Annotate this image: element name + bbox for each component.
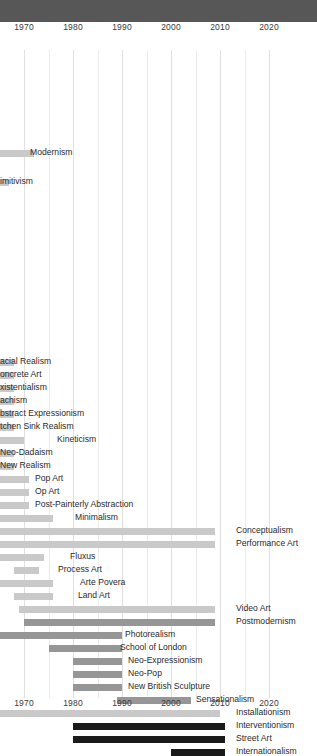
timeline-bar[interactable] bbox=[0, 632, 122, 639]
gridline-2015 bbox=[245, 50, 246, 698]
tick-top-2020: 2020 bbox=[249, 22, 289, 32]
timeline-bar[interactable] bbox=[73, 671, 122, 678]
gridline-1990 bbox=[122, 50, 123, 698]
bar-label: acial Realism bbox=[0, 356, 51, 366]
gridline-1985 bbox=[98, 50, 99, 698]
timeline-bar[interactable] bbox=[24, 619, 215, 626]
window-header-bar bbox=[0, 0, 317, 22]
timeline-bar[interactable] bbox=[73, 723, 225, 730]
timeline-bar[interactable] bbox=[14, 567, 39, 574]
bar-label: Postmodernism bbox=[236, 616, 296, 626]
gridline-1980 bbox=[73, 50, 74, 698]
bar-label: Conceptualism bbox=[236, 525, 293, 535]
timeline-bar[interactable] bbox=[0, 554, 44, 561]
tick-bottom-1990: 1990 bbox=[102, 698, 142, 708]
timeline-bar[interactable] bbox=[0, 437, 24, 444]
tick-top-1990: 1990 bbox=[102, 22, 142, 32]
timeline-bar[interactable] bbox=[49, 645, 123, 652]
bar-label: Op Art bbox=[35, 486, 59, 496]
bar-label: Minimalism bbox=[75, 512, 118, 522]
timeline-bar[interactable] bbox=[19, 606, 215, 613]
tick-top-2010: 2010 bbox=[200, 22, 240, 32]
axis-top: 197019801990200020102020 bbox=[0, 22, 317, 38]
timeline-bar[interactable] bbox=[0, 515, 53, 522]
tick-bottom-2020: 2020 bbox=[249, 698, 289, 708]
timeline-bar[interactable] bbox=[14, 593, 53, 600]
bar-label: bstract Expressionism bbox=[0, 408, 84, 418]
bar-label: Video Art bbox=[236, 603, 271, 613]
bar-label: tchen Sink Realism bbox=[0, 421, 74, 431]
tick-top-1970: 1970 bbox=[4, 22, 44, 32]
bar-label: Process Art bbox=[58, 564, 102, 574]
tick-bottom-2000: 2000 bbox=[151, 698, 191, 708]
timeline-bar[interactable] bbox=[0, 580, 53, 587]
bar-label: Land Art bbox=[78, 590, 110, 600]
bar-label: Neo-Dadaism bbox=[0, 447, 53, 457]
timeline-bar[interactable] bbox=[73, 684, 122, 691]
bar-label: imitivism bbox=[0, 176, 33, 186]
bar-label: xistentialism bbox=[0, 382, 47, 392]
bar-label: Kineticism bbox=[57, 434, 96, 444]
bar-label: Neo-Expressionism bbox=[128, 655, 203, 665]
gridline-2020 bbox=[269, 50, 270, 698]
bar-label: Street Art bbox=[236, 733, 272, 743]
bar-label: Modernism bbox=[30, 147, 73, 157]
bar-label: Fluxus bbox=[70, 551, 95, 561]
tick-top-1980: 1980 bbox=[53, 22, 93, 32]
bar-label: New Realism bbox=[0, 460, 51, 470]
timeline-bar[interactable] bbox=[73, 658, 122, 665]
bar-label: Arte Povera bbox=[80, 577, 125, 587]
timeline-bar[interactable] bbox=[0, 150, 34, 157]
bar-label: Pop Art bbox=[35, 473, 63, 483]
bar-label: Post-Painterly Abstraction bbox=[35, 499, 133, 509]
timeline-bar[interactable] bbox=[73, 736, 225, 743]
timeline-bar[interactable] bbox=[0, 476, 29, 483]
bar-label: Neo-Pop bbox=[128, 668, 162, 678]
tick-bottom-1980: 1980 bbox=[53, 698, 93, 708]
axis-bottom: 197019801990200020102020 bbox=[0, 698, 317, 714]
timeline-bar[interactable] bbox=[0, 541, 215, 548]
bar-label: New British Sculpture bbox=[128, 681, 210, 691]
timeline-bar[interactable] bbox=[0, 502, 29, 509]
timeline-bar[interactable] bbox=[0, 528, 215, 535]
tick-bottom-1970: 1970 bbox=[4, 698, 44, 708]
gridline-2005 bbox=[196, 50, 197, 698]
timeline-bar[interactable] bbox=[0, 489, 29, 496]
tick-top-2000: 2000 bbox=[151, 22, 191, 32]
bar-label: Performance Art bbox=[236, 538, 298, 548]
bar-label: School of London bbox=[120, 642, 187, 652]
timeline-bar[interactable] bbox=[171, 749, 225, 756]
gridline-2000 bbox=[171, 50, 172, 698]
bar-label: Internationalism bbox=[236, 746, 297, 756]
bar-label: Interventionism bbox=[236, 720, 294, 730]
bar-label: Photorealism bbox=[125, 629, 175, 639]
bar-label: oncrete Art bbox=[0, 369, 42, 379]
bar-label: achism bbox=[0, 395, 27, 405]
tick-bottom-2010: 2010 bbox=[200, 698, 240, 708]
gridline-2010 bbox=[220, 50, 221, 698]
timeline-chart: 197019801990200020102020 Modernismimitiv… bbox=[0, 22, 317, 740]
gridline-1995 bbox=[147, 50, 148, 698]
